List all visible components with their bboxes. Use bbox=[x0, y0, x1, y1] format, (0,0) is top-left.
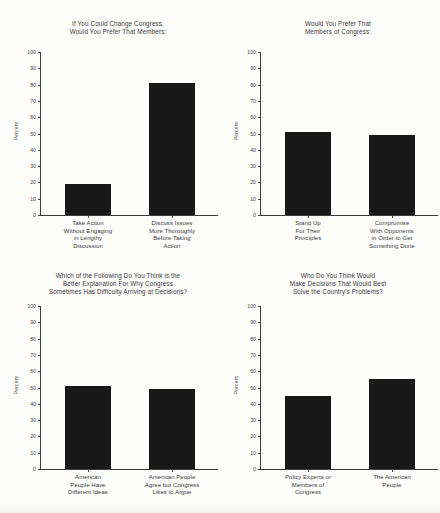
y-tick-mark bbox=[38, 469, 40, 470]
y-tick-label: 30 bbox=[238, 163, 256, 169]
y-tick-label: 0 bbox=[18, 466, 36, 472]
x-axis-line bbox=[40, 215, 218, 216]
chart-title-4: Who Do You Think Would Make Decisions Th… bbox=[220, 272, 440, 297]
y-tick-mark bbox=[38, 371, 40, 372]
y-tick-mark bbox=[258, 182, 260, 183]
category-label-2-1: Compromise With Opponents in Order to Ge… bbox=[344, 220, 440, 250]
y-tick-label: 70 bbox=[238, 352, 256, 358]
category-label-2-0: Stand Up For Their Principles bbox=[260, 220, 356, 243]
y-tick-mark bbox=[258, 306, 260, 307]
bar bbox=[369, 135, 415, 215]
bar bbox=[285, 132, 331, 215]
y-tick-mark bbox=[258, 166, 260, 167]
category-label-1-0: Take Action Without Engaging in Lengthy … bbox=[40, 220, 136, 250]
bar bbox=[65, 386, 111, 469]
y-tick-mark bbox=[38, 166, 40, 167]
y-tick-mark bbox=[38, 182, 40, 183]
y-tick-mark bbox=[258, 52, 260, 53]
chart-panel-1: If You Could Change Congress, Would You … bbox=[0, 0, 220, 260]
y-axis-line bbox=[260, 52, 261, 215]
y-tick-label: 40 bbox=[238, 401, 256, 407]
y-tick-label: 30 bbox=[18, 163, 36, 169]
y-tick-label: 60 bbox=[238, 368, 256, 374]
y-tick-label: 20 bbox=[18, 179, 36, 185]
plot-area-4: 0102030405060708090100Percent bbox=[220, 306, 440, 469]
category-label-4-1: The American People bbox=[344, 474, 440, 489]
y-tick-mark bbox=[38, 322, 40, 323]
y-tick-label: 30 bbox=[238, 417, 256, 423]
y-tick-label: 80 bbox=[238, 82, 256, 88]
y-tick-mark bbox=[38, 117, 40, 118]
bar bbox=[369, 379, 415, 469]
y-tick-mark bbox=[258, 117, 260, 118]
y-tick-mark bbox=[258, 420, 260, 421]
x-tick-mark bbox=[308, 216, 309, 218]
x-tick-mark bbox=[88, 470, 89, 472]
y-tick-label: 40 bbox=[18, 147, 36, 153]
y-tick-label: 80 bbox=[18, 82, 36, 88]
y-tick-label: 60 bbox=[18, 114, 36, 120]
y-tick-mark bbox=[38, 150, 40, 151]
chart-title-2: Would You Prefer That Members of Congres… bbox=[220, 20, 440, 36]
y-tick-label: 100 bbox=[238, 303, 256, 309]
x-axis-line bbox=[260, 215, 438, 216]
y-tick-mark bbox=[38, 306, 40, 307]
y-tick-mark bbox=[258, 322, 260, 323]
chart-panel-4: Who Do You Think Would Make Decisions Th… bbox=[220, 260, 440, 513]
y-tick-label: 50 bbox=[18, 131, 36, 137]
y-tick-label: 100 bbox=[18, 303, 36, 309]
x-tick-mark bbox=[172, 216, 173, 218]
bar bbox=[149, 83, 195, 215]
x-axis-line bbox=[40, 469, 218, 470]
x-tick-mark bbox=[308, 470, 309, 472]
y-tick-label: 20 bbox=[18, 433, 36, 439]
y-tick-mark bbox=[258, 436, 260, 437]
y-tick-label: 50 bbox=[238, 385, 256, 391]
y-axis-line bbox=[260, 306, 261, 469]
plot-area-3: 0102030405060708090100Percent bbox=[0, 306, 220, 469]
plot-area-2: 0102030405060708090100Percent bbox=[220, 52, 440, 215]
y-tick-mark bbox=[258, 85, 260, 86]
y-tick-mark bbox=[38, 101, 40, 102]
plot-area-1: 0102030405060708090100Percent bbox=[0, 52, 220, 215]
x-axis-line bbox=[260, 469, 438, 470]
category-label-1-1: Discuss Issues More Thoroughly Before Ta… bbox=[124, 220, 220, 250]
y-tick-mark bbox=[38, 436, 40, 437]
y-tick-mark bbox=[258, 101, 260, 102]
y-tick-mark bbox=[38, 355, 40, 356]
y-tick-label: 0 bbox=[18, 212, 36, 218]
x-tick-mark bbox=[172, 470, 173, 472]
y-tick-label: 40 bbox=[238, 147, 256, 153]
y-tick-mark bbox=[38, 215, 40, 216]
y-tick-label: 10 bbox=[238, 196, 256, 202]
figure-page: If You Could Change Congress, Would You … bbox=[0, 0, 440, 513]
y-tick-mark bbox=[258, 371, 260, 372]
y-tick-label: 20 bbox=[238, 179, 256, 185]
y-tick-label: 50 bbox=[18, 385, 36, 391]
y-tick-mark bbox=[38, 134, 40, 135]
y-tick-label: 100 bbox=[18, 49, 36, 55]
y-tick-mark bbox=[258, 469, 260, 470]
bar bbox=[285, 396, 331, 469]
chart-panel-3: Which of the Following Do You Think is t… bbox=[0, 260, 220, 513]
y-tick-label: 70 bbox=[238, 98, 256, 104]
y-tick-label: 60 bbox=[18, 368, 36, 374]
y-tick-mark bbox=[38, 52, 40, 53]
y-tick-label: 10 bbox=[18, 450, 36, 456]
y-tick-mark bbox=[258, 453, 260, 454]
y-tick-mark bbox=[38, 388, 40, 389]
y-tick-label: 90 bbox=[18, 65, 36, 71]
y-tick-label: 80 bbox=[238, 336, 256, 342]
y-tick-label: 20 bbox=[238, 433, 256, 439]
x-tick-mark bbox=[88, 216, 89, 218]
y-tick-mark bbox=[258, 339, 260, 340]
y-tick-mark bbox=[38, 453, 40, 454]
y-tick-label: 0 bbox=[238, 212, 256, 218]
bar bbox=[65, 184, 111, 215]
chart-title-1: If You Could Change Congress, Would You … bbox=[0, 20, 236, 36]
y-axis-title: Percent bbox=[13, 363, 19, 407]
y-tick-label: 90 bbox=[238, 65, 256, 71]
y-tick-mark bbox=[38, 420, 40, 421]
y-tick-mark bbox=[258, 68, 260, 69]
chart-title-3: Which of the Following Do You Think is t… bbox=[0, 272, 236, 297]
